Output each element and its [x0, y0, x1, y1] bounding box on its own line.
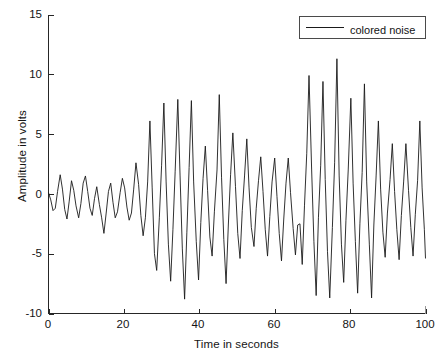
x-axis-label: Time in seconds: [48, 338, 425, 350]
x-tick-label-80: 80: [329, 318, 369, 330]
x-tick-label-100: 100: [405, 318, 442, 330]
y-tick-label-15: 15: [8, 8, 42, 20]
plot-axes: [49, 15, 427, 315]
y-axis-label: Amplitude in volts: [16, 56, 28, 256]
x-tick-label-20: 20: [103, 318, 143, 330]
y-tick-label-0: 0: [8, 188, 42, 200]
x-tick-label-0: 0: [28, 318, 68, 330]
y-tick-marks: [49, 16, 54, 315]
x-tick-marks: [50, 309, 427, 314]
data-series-group: [49, 59, 426, 299]
legend-entry-label: colored noise: [350, 24, 415, 36]
y-tick-label-10: 10: [8, 68, 42, 80]
y-tick-label-5: 5: [8, 128, 42, 140]
chart-figure: Amplitude in volts Time in seconds 15 10…: [0, 0, 442, 361]
y-tick-label-neg5: -5: [8, 247, 42, 259]
x-tick-label-60: 60: [254, 318, 294, 330]
plot-canvas: [0, 0, 442, 361]
x-tick-label-40: 40: [178, 318, 218, 330]
